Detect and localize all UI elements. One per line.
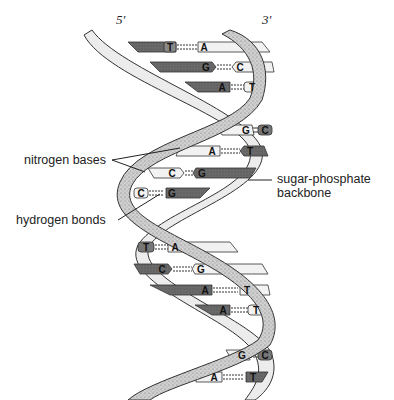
base-5-left: A bbox=[208, 146, 215, 157]
dna-diagram: T A G C A T G C A T C G C G T A C G A T … bbox=[0, 0, 394, 400]
base-4-right: C bbox=[261, 125, 268, 136]
base-10-left: A bbox=[201, 285, 208, 296]
base-5-right: T bbox=[247, 146, 253, 157]
base-7-right: G bbox=[168, 188, 176, 199]
helix-graphic: T A G C A T G C A T C G C G T A C G A T … bbox=[0, 0, 394, 400]
base-11-right: T bbox=[253, 305, 259, 316]
backbone-label-line1: sugar-phosphate bbox=[277, 172, 371, 186]
base-12-right: C bbox=[261, 350, 268, 361]
base-10-right: T bbox=[244, 285, 250, 296]
base-1-left: T bbox=[167, 42, 173, 53]
backbone-label-line2: backbone bbox=[277, 186, 331, 200]
base-2-right: C bbox=[236, 62, 243, 73]
base-9-left: C bbox=[158, 264, 165, 275]
three-prime-label: 3' bbox=[262, 12, 271, 28]
base-8-right: A bbox=[171, 242, 178, 253]
hydrogen-bonds-label: hydrogen bonds bbox=[16, 213, 106, 227]
nitrogen-bases-label: nitrogen bases bbox=[24, 153, 106, 167]
base-13-right: T bbox=[250, 372, 256, 383]
base-7-left: C bbox=[137, 188, 144, 199]
base-pair-5 bbox=[176, 146, 268, 156]
base-3-right: T bbox=[249, 82, 255, 93]
base-3-left: A bbox=[218, 82, 225, 93]
base-2-left: G bbox=[202, 62, 210, 73]
five-prime-label: 5' bbox=[116, 12, 125, 28]
base-9-right: G bbox=[197, 264, 205, 275]
base-11-left: A bbox=[219, 305, 226, 316]
base-6-right: G bbox=[198, 168, 206, 179]
base-6-left: C bbox=[168, 168, 175, 179]
base-4-left: G bbox=[242, 125, 250, 136]
base-13-left: A bbox=[210, 372, 217, 383]
base-1-right: A bbox=[200, 42, 207, 53]
base-12-left: G bbox=[238, 350, 246, 361]
base-8-left: T bbox=[143, 242, 149, 253]
